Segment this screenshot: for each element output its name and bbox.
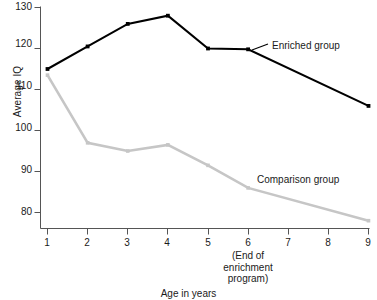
- series-label-enriched-group: Enriched group: [272, 40, 340, 51]
- enriched-group-line: [48, 16, 369, 106]
- comparison-group-markers: [46, 73, 371, 222]
- data-point-marker: [126, 22, 130, 26]
- x-tick-label-4: 4: [157, 238, 177, 248]
- data-point-marker: [246, 186, 250, 190]
- x-tick-label-1: 1: [37, 238, 57, 248]
- annotation-line-2: enrichment: [188, 262, 308, 274]
- x-tick-label-6: 6: [238, 238, 258, 248]
- y-tick-label-130: 130: [2, 2, 32, 12]
- y-tick-label-90: 90: [2, 165, 32, 175]
- y-tick-label-100: 100: [2, 123, 32, 133]
- comparison-group-line: [48, 75, 369, 221]
- data-point-marker: [166, 143, 170, 147]
- annotation-line-1: (End of: [188, 250, 308, 262]
- x-axis-title: Age in years: [0, 288, 377, 299]
- series-label-comparison-group: Comparison group: [257, 174, 339, 185]
- y-tick-label-110: 110: [2, 81, 32, 91]
- x-tick-label-5: 5: [198, 238, 218, 248]
- enriched-group-leader-line: [252, 44, 268, 50]
- x-tick-label-9: 9: [358, 238, 377, 248]
- x-tick-label-3: 3: [117, 238, 137, 248]
- iq-line-chart: Average IQ 130 120 110 100 90 80 1 2 3 4…: [0, 0, 377, 300]
- data-point-marker: [206, 47, 210, 51]
- x-tick-label-2: 2: [77, 238, 97, 248]
- data-point-marker: [46, 73, 50, 77]
- data-point-marker: [126, 149, 130, 153]
- data-point-marker: [246, 47, 250, 51]
- y-tick-label-80: 80: [2, 207, 32, 217]
- x-axis-ticks: [48, 229, 369, 235]
- data-point-marker: [86, 141, 90, 145]
- enriched-group-markers: [46, 14, 371, 108]
- data-point-marker: [367, 219, 371, 223]
- x-tick-label-7: 7: [278, 238, 298, 248]
- y-axis-ticks: [35, 8, 41, 213]
- data-point-marker: [367, 104, 371, 108]
- data-point-marker: [206, 164, 210, 168]
- series-comparison-group: [46, 73, 371, 222]
- series-enriched-group: [46, 14, 371, 108]
- annotation-line-3: program): [188, 273, 308, 285]
- data-point-marker: [46, 67, 50, 71]
- data-point-marker: [86, 45, 90, 49]
- data-point-marker: [166, 14, 170, 18]
- x-tick-label-8: 8: [318, 238, 338, 248]
- y-tick-label-120: 120: [2, 39, 32, 49]
- end-of-program-annotation: (End of enrichment program): [188, 250, 308, 285]
